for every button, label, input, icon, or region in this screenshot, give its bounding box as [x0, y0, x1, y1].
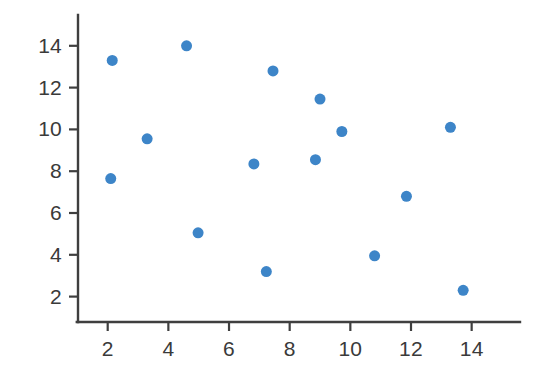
scatter-plot-figure: 24681012142468101214 [0, 0, 549, 379]
x-axis-tick-label: 10 [338, 337, 362, 361]
axis-ticks-group [69, 46, 472, 331]
data-point [445, 122, 456, 133]
data-point [105, 173, 116, 184]
data-point [336, 126, 347, 137]
y-axis-tick-label: 10 [38, 117, 62, 141]
data-point [369, 250, 380, 261]
plot-canvas [0, 0, 549, 379]
data-point [310, 154, 321, 165]
x-axis-tick-label: 14 [460, 337, 484, 361]
data-point [458, 285, 469, 296]
axes-group [77, 15, 520, 322]
y-axis-tick-label: 2 [50, 285, 62, 309]
data-point [248, 158, 259, 169]
y-axis-tick-label: 12 [38, 76, 62, 100]
x-axis-tick-label: 8 [284, 337, 296, 361]
y-axis-tick-label: 8 [50, 159, 62, 183]
data-point [261, 266, 272, 277]
y-axis-tick-label: 6 [50, 201, 62, 225]
data-point [142, 133, 153, 144]
y-axis-tick-label: 4 [50, 243, 62, 267]
y-axis-tick-label: 14 [38, 34, 62, 58]
data-point [181, 40, 192, 51]
data-points-group [105, 40, 468, 296]
x-axis-tick-label: 6 [223, 337, 235, 361]
x-axis-tick-label: 2 [102, 337, 114, 361]
x-axis-tick-label: 4 [162, 337, 174, 361]
data-point [401, 191, 412, 202]
data-point [267, 65, 278, 76]
data-point [193, 227, 204, 238]
x-axis-tick-label: 12 [399, 337, 423, 361]
data-point [315, 94, 326, 105]
data-point [107, 55, 118, 66]
